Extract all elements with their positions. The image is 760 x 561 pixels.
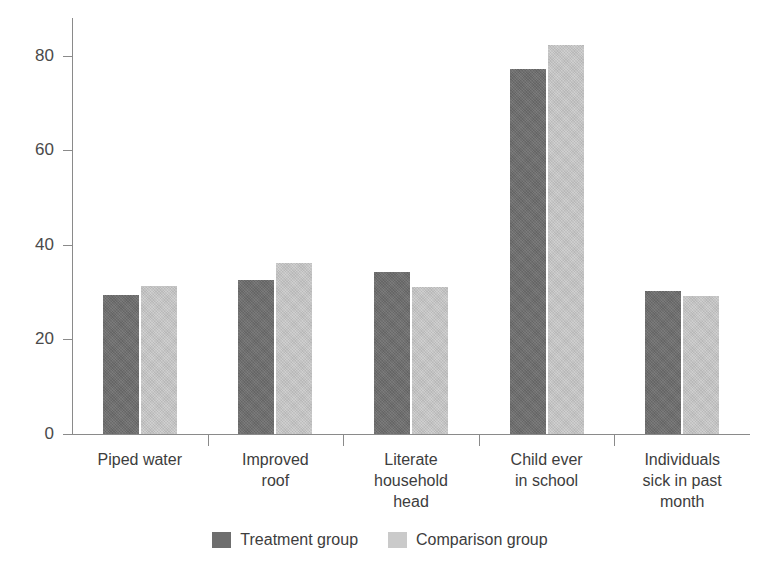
x-axis-separator (343, 435, 344, 446)
x-axis-group-label-line: Child ever (479, 449, 615, 470)
plot-area (72, 18, 750, 434)
x-axis-group-label-line: Individuals (614, 449, 750, 470)
y-axis-tick-label: 40 (4, 236, 54, 253)
bar-comparison-3 (548, 45, 584, 434)
x-axis-group-label-2: Literatehouseholdhead (343, 449, 479, 512)
y-axis-tick-label: 60 (4, 141, 54, 158)
x-axis-separator (208, 435, 209, 446)
x-axis-group-label-line: head (343, 491, 479, 512)
bar-treatment-0 (103, 295, 139, 434)
chart-legend: Treatment groupComparison group (0, 531, 760, 549)
x-axis-group-label-line: Improved (208, 449, 344, 470)
x-axis-line (72, 434, 750, 435)
x-axis-separator (614, 435, 615, 446)
legend-item-comparison[interactable]: Comparison group (388, 531, 548, 549)
x-axis-group-label-line: Piped water (72, 449, 208, 470)
x-axis-group-label-4: Individualssick in pastmonth (614, 449, 750, 512)
bar-treatment-4 (645, 291, 681, 434)
legend-swatch-icon (212, 532, 231, 548)
legend-item-treatment[interactable]: Treatment group (212, 531, 358, 549)
bar-comparison-2 (412, 287, 448, 434)
x-axis-separator (479, 435, 480, 446)
bar-treatment-3 (510, 69, 546, 434)
x-axis-group-label-0: Piped water (72, 449, 208, 470)
legend-swatch-icon (388, 532, 407, 548)
x-axis-group-label-1: Improvedroof (208, 449, 344, 491)
x-axis-group-label-line: sick in past (614, 470, 750, 491)
bar-comparison-0 (141, 286, 177, 434)
y-axis-tick-label: 0 (4, 425, 54, 442)
legend-label: Treatment group (240, 531, 358, 549)
y-axis-tick-label: 20 (4, 330, 54, 347)
bar-comparison-1 (276, 263, 312, 434)
x-axis-group-label-line: in school (479, 470, 615, 491)
bar-chart: Percent 020406080 Piped waterImprovedroo… (0, 0, 760, 561)
x-axis-group-label-line: household (343, 470, 479, 491)
x-axis-group-label-line: Literate (343, 449, 479, 470)
legend-label: Comparison group (416, 531, 548, 549)
y-axis-tick-label: 80 (4, 47, 54, 64)
bar-treatment-2 (374, 272, 410, 434)
x-axis-group-label-3: Child everin school (479, 449, 615, 491)
x-axis-group-label-line: month (614, 491, 750, 512)
bar-comparison-4 (683, 296, 719, 434)
bar-treatment-1 (238, 280, 274, 434)
x-axis-group-label-line: roof (208, 470, 344, 491)
